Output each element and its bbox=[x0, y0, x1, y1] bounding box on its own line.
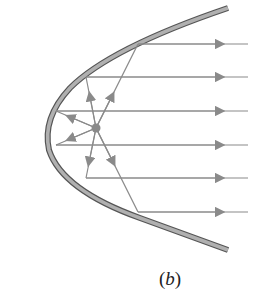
reflected-rays bbox=[56, 44, 248, 212]
parabolic-reflector-diagram bbox=[0, 0, 254, 295]
focus-point bbox=[92, 124, 101, 133]
caption-letter: b bbox=[165, 268, 175, 289]
caption-close-paren: ) bbox=[175, 268, 181, 289]
figure-caption: (b) bbox=[0, 268, 254, 290]
